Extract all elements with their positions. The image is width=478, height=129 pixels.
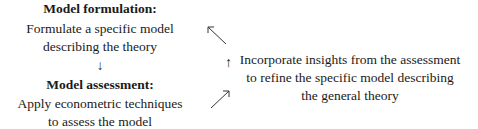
down-arrow-icon: ↓ [0,58,200,74]
formulation-title: Model formulation: [0,1,200,17]
feedback-line-1: Incorporate insights from the assessment [238,52,462,68]
feedback-line-3: the general theory [238,88,462,104]
up-arrow-icon: ↑ [225,56,232,70]
feedback-line-2: to refine the specific model describing [238,70,462,86]
formulation-line-2: describing the theory [0,39,200,55]
assessment-line-1: Apply econometric techniques [0,96,200,112]
arrow-up-right-icon [208,88,232,110]
arrow-up-left-icon [205,24,229,46]
assessment-title: Model assessment: [0,77,200,93]
formulation-line-1: Formulate a specific model [0,21,200,37]
assessment-line-2: to assess the model [0,114,200,129]
